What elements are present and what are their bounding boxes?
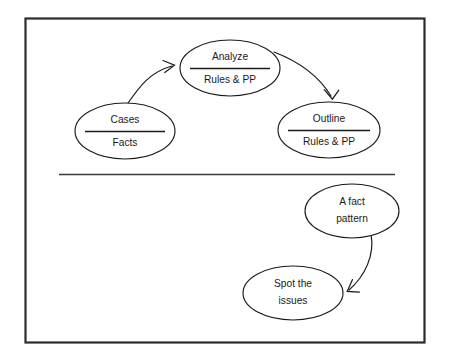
diagram-nodes-layer: CasesFactsAnalyzeRules & PPOutlineRules … <box>75 40 399 320</box>
arrow-cases-to-analyze <box>128 61 175 104</box>
node-a-fact-pattern[interactable]: A factpattern <box>305 184 399 238</box>
node-a-fact-pattern-ellipse[interactable] <box>305 184 399 238</box>
node-analyze[interactable]: AnalyzeRules & PP <box>180 40 280 96</box>
node-spot-the-issues-ellipse[interactable] <box>243 266 343 320</box>
node-cases-facts-bottom-label: Facts <box>113 137 138 148</box>
node-outline[interactable]: OutlineRules & PP <box>278 102 380 158</box>
node-outline-bottom-label: Rules & PP <box>303 136 355 147</box>
diagram-canvas: CasesFactsAnalyzeRules & PPOutlineRules … <box>0 0 449 361</box>
node-spot-the-issues-bottom-label: issues <box>279 295 308 306</box>
arrow-fact-pattern-to-spot-issues <box>347 234 372 292</box>
node-cases-facts[interactable]: CasesFacts <box>75 103 175 159</box>
node-spot-the-issues[interactable]: Spot theissues <box>243 266 343 320</box>
node-spot-the-issues-top-label: Spot the <box>274 278 312 289</box>
node-analyze-bottom-label: Rules & PP <box>204 74 256 85</box>
node-a-fact-pattern-top-label: A fact <box>339 196 365 207</box>
node-outline-top-label: Outline <box>313 113 346 124</box>
arrow-analyze-to-outline <box>274 52 339 99</box>
node-analyze-top-label: Analyze <box>212 51 249 62</box>
node-a-fact-pattern-bottom-label: pattern <box>336 213 368 224</box>
diagram-figure: CasesFactsAnalyzeRules & PPOutlineRules … <box>0 0 449 361</box>
node-cases-facts-top-label: Cases <box>111 114 140 125</box>
